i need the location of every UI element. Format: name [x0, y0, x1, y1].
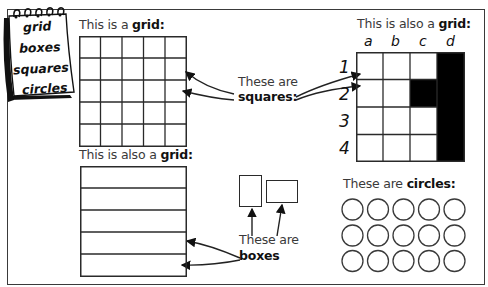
box-wide [266, 180, 298, 203]
label-text: This is also a [79, 147, 160, 162]
column-label-a: a [364, 33, 373, 49]
filled-cell-c2 [410, 80, 438, 108]
lettered-grid-label: This is also a grid: [357, 16, 471, 31]
row-label-1: 1 [339, 57, 350, 77]
circles-grid [341, 198, 469, 274]
circles-label: These are circles: [343, 176, 456, 191]
row-grid [80, 166, 187, 277]
column-label-d: d [446, 33, 455, 49]
column-label-b: b [391, 33, 400, 49]
row-label-3: 3 [339, 111, 350, 131]
row-label-2: 2 [339, 84, 350, 104]
boxes-callout-line2: boxes [239, 248, 280, 263]
lettered-grid-lines [356, 52, 465, 162]
label-bold: circles: [407, 176, 456, 191]
label-text: This is also a [357, 16, 438, 31]
circles-graphic [341, 198, 469, 274]
boxes-callout-line1: These are [239, 232, 299, 247]
row-label-4: 4 [339, 138, 350, 158]
label-bold: grid: [160, 147, 192, 162]
label-text: These are [343, 176, 407, 191]
row-grid-label: This is also a grid: [79, 147, 193, 162]
filled-cell-column-d [437, 52, 465, 162]
lettered-grid [356, 52, 465, 162]
box-tall [239, 175, 262, 207]
label-bold: grid: [438, 16, 470, 31]
row-grid-lines [80, 166, 187, 277]
column-label-c: c [419, 33, 427, 49]
